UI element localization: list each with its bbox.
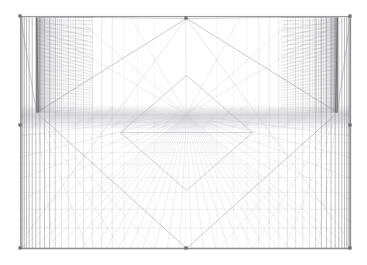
viewport-container bbox=[0, 0, 367, 265]
perspective-wireframe-canvas[interactable] bbox=[0, 0, 367, 265]
